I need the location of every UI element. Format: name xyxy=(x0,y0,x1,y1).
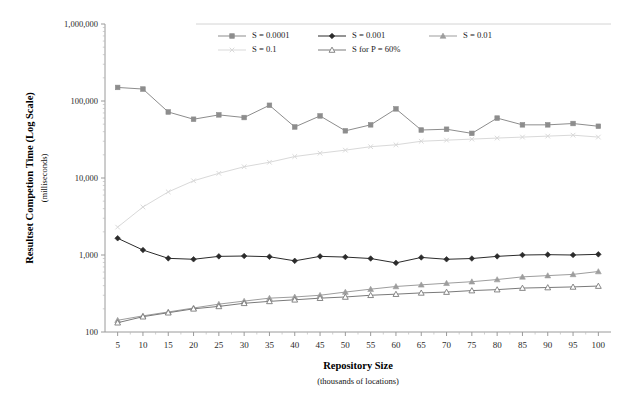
series-line xyxy=(118,286,599,323)
x-tick-label: 90 xyxy=(543,340,553,350)
series-s-0-1 xyxy=(115,133,600,230)
series-marker xyxy=(141,87,146,92)
y-tick-label: 1,000,000 xyxy=(64,19,98,29)
x-tick-label: 75 xyxy=(467,340,477,350)
series-s-0-0001 xyxy=(115,85,600,136)
series-marker xyxy=(470,131,475,136)
series-marker xyxy=(318,114,323,119)
series-marker xyxy=(418,255,424,261)
x-axis-title: Repository Size xyxy=(323,360,393,371)
series-marker xyxy=(242,115,247,120)
series-marker xyxy=(520,252,526,258)
legend-label: S = 0.1 xyxy=(252,44,277,54)
series-line xyxy=(118,135,599,227)
series-marker xyxy=(267,103,272,108)
x-tick-label: 25 xyxy=(214,340,224,350)
x-tick-label: 40 xyxy=(290,340,300,350)
y-tick-label: 100 xyxy=(85,327,98,337)
series-marker xyxy=(494,254,500,260)
x-tick-label: 50 xyxy=(341,340,351,350)
x-tick-label: 100 xyxy=(592,340,606,350)
x-tick-label: 15 xyxy=(164,340,174,350)
x-tick-label: 20 xyxy=(189,340,199,350)
series-marker xyxy=(419,128,424,133)
series-marker xyxy=(343,254,349,260)
x-tick-label: 95 xyxy=(569,340,579,350)
legend-label: S = 0.001 xyxy=(352,30,385,40)
y-axis-subtitle: (milliseconds) xyxy=(39,154,49,203)
series-marker xyxy=(571,121,576,126)
x-tick-label: 65 xyxy=(417,340,427,350)
chart-legend: S = 0.0001S = 0.001S = 0.01S = 0.1S for … xyxy=(196,24,611,54)
legend-label: S = 0.0001 xyxy=(252,30,290,40)
line-chart: 1,000,000100,00010,0001,0001005101520253… xyxy=(0,0,625,398)
legend-label: S for P = 60% xyxy=(352,44,400,54)
series-marker xyxy=(368,256,374,262)
legend-item[interactable]: S = 0.001 xyxy=(318,30,385,40)
series-marker xyxy=(545,252,551,258)
x-tick-label: 80 xyxy=(493,340,503,350)
series-marker xyxy=(191,117,196,122)
series-line xyxy=(118,87,599,133)
series-marker xyxy=(166,110,171,115)
series-marker xyxy=(230,34,235,39)
series-marker xyxy=(165,256,171,262)
series-marker xyxy=(216,254,222,260)
series-marker xyxy=(292,258,298,264)
series-marker xyxy=(596,124,601,129)
series-marker xyxy=(495,116,500,121)
x-tick-label: 5 xyxy=(115,340,120,350)
x-tick-label: 85 xyxy=(518,340,528,350)
y-axis-title: Resultset Competion Time (Log Scale) xyxy=(24,92,36,264)
x-tick-label: 10 xyxy=(138,340,148,350)
chart-axes: 1,000,000100,00010,0001,0001005101520253… xyxy=(64,19,611,350)
series-marker xyxy=(115,85,120,90)
series-marker xyxy=(444,127,449,132)
series-marker xyxy=(444,256,450,262)
series-marker xyxy=(393,260,399,266)
legend-label: S = 0.01 xyxy=(463,30,492,40)
legend-item[interactable]: S for P = 60% xyxy=(318,44,400,54)
series-marker xyxy=(292,125,297,130)
x-tick-label: 30 xyxy=(240,340,250,350)
series-s-0-001 xyxy=(115,235,601,265)
series-marker xyxy=(570,252,576,258)
series-marker xyxy=(520,123,525,128)
series-marker xyxy=(469,256,475,262)
series-marker xyxy=(329,33,335,39)
x-tick-label: 70 xyxy=(442,340,452,350)
y-tick-label: 10,000 xyxy=(75,173,98,183)
series-marker xyxy=(317,254,323,260)
series-marker xyxy=(596,252,602,258)
series-marker xyxy=(267,254,273,260)
series-marker xyxy=(368,123,373,128)
legend-item[interactable]: S = 0.01 xyxy=(429,30,492,40)
series-s-for-p-60- xyxy=(115,283,602,325)
y-tick-label: 1,000 xyxy=(79,250,98,260)
series-marker xyxy=(343,129,348,134)
x-tick-label: 60 xyxy=(391,340,401,350)
x-tick-label: 45 xyxy=(316,340,326,350)
chart-container: 1,000,000100,00010,0001,0001005101520253… xyxy=(0,0,625,398)
legend-item[interactable]: S = 0.0001 xyxy=(218,30,290,40)
series-s-0-01 xyxy=(115,269,602,323)
x-axis-subtitle: (thousands of locations) xyxy=(317,376,399,386)
series-marker xyxy=(394,107,399,112)
series-marker xyxy=(115,235,121,241)
x-tick-label: 35 xyxy=(265,340,275,350)
y-tick-label: 100,000 xyxy=(70,96,98,106)
series-marker xyxy=(595,269,601,274)
series-marker xyxy=(140,247,146,253)
series-marker xyxy=(217,113,222,118)
legend-item[interactable]: S = 0.1 xyxy=(218,44,277,54)
series-line xyxy=(118,238,599,263)
x-tick-label: 55 xyxy=(366,340,376,350)
series-marker xyxy=(241,253,247,259)
series-marker xyxy=(191,256,197,262)
series-marker xyxy=(545,123,550,128)
